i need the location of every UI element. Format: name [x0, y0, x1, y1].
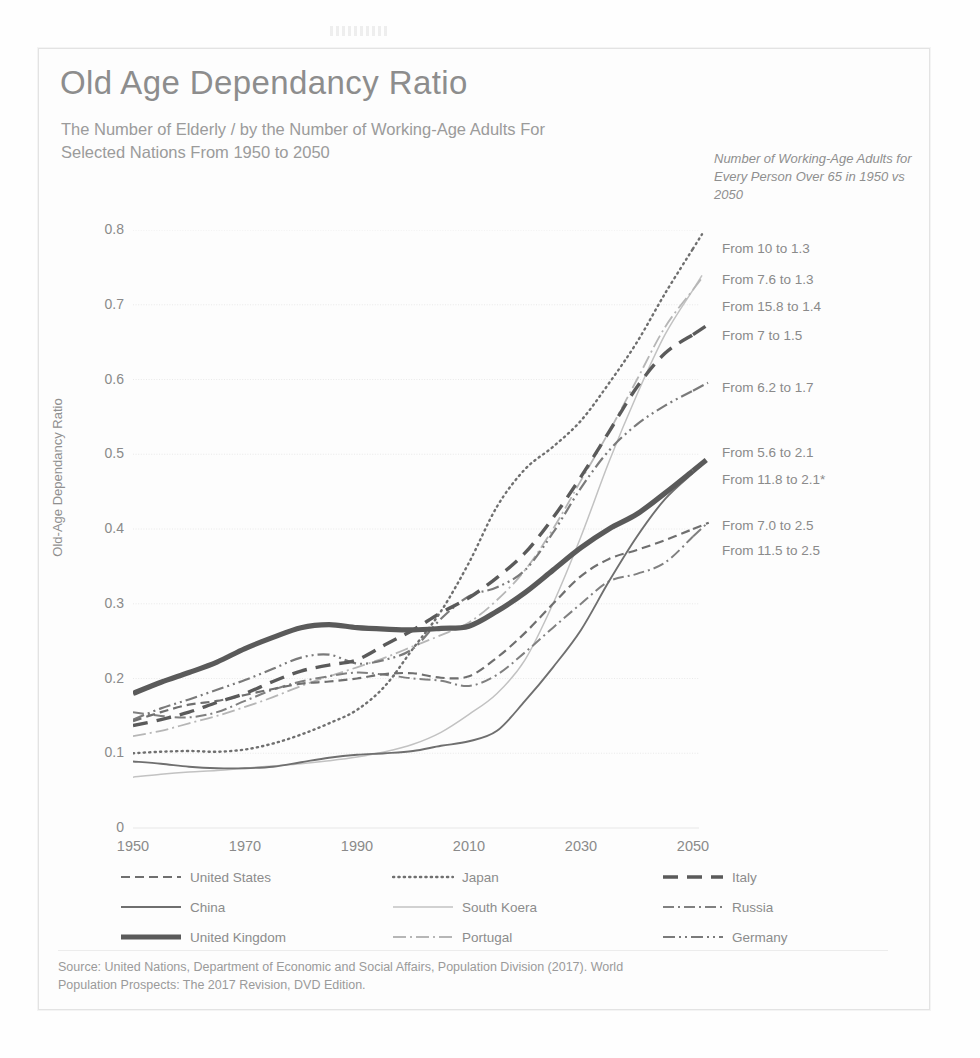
scan-artifact: [330, 26, 390, 36]
legend-label: Germany: [732, 930, 788, 945]
annotation-1: From 7.6 to 1.3: [722, 272, 814, 287]
source-note: Source: United Nations, Department of Ec…: [58, 958, 658, 994]
y-tick-label: 0.5: [78, 445, 124, 461]
y-tick-label: 0.2: [78, 670, 124, 686]
legend-item-united-kingdom[interactable]: United Kingdom: [120, 922, 392, 952]
legend-swatch-russia-icon: [662, 900, 724, 914]
series-line-china: [133, 473, 693, 768]
legend-label: Russia: [732, 900, 773, 915]
legend-item-portugal[interactable]: Portugal: [392, 922, 662, 952]
annotation-3: From 7 to 1.5: [722, 328, 802, 343]
annotation-8: From 11.5 to 2.5: [722, 543, 820, 558]
legend-label: Italy: [732, 870, 757, 885]
annotation-4: From 6.2 to 1.7: [722, 380, 814, 395]
series-line-united-states: [133, 529, 693, 721]
legend-item-china[interactable]: China: [120, 892, 392, 922]
x-tick-label: 2050: [658, 838, 728, 854]
legend-label: Japan: [462, 870, 499, 885]
legend-label: South Koera: [462, 900, 537, 915]
legend-row: United StatesJapanItaly: [120, 862, 910, 892]
legend-swatch-germany-icon: [662, 930, 724, 944]
legend-item-russia[interactable]: Russia: [662, 892, 902, 922]
chart-subtitle: The Number of Elderly / by the Number of…: [61, 118, 581, 164]
annotation-7: From 7.0 to 2.5: [722, 518, 814, 533]
y-tick-label: 0.3: [78, 595, 124, 611]
series-leader-united-kingdom: [693, 460, 706, 471]
legend-swatch-china-icon: [120, 900, 182, 914]
plot-area: [133, 230, 693, 828]
y-tick-label: 0.7: [78, 296, 124, 312]
annotation-5: From 5.6 to 2.1: [722, 445, 814, 460]
legend-item-south-koera[interactable]: South Koera: [392, 892, 662, 922]
legend-swatch-united-states-icon: [120, 870, 182, 884]
legend-item-italy[interactable]: Italy: [662, 862, 902, 892]
annotation-2: From 15.8 to 1.4: [722, 299, 821, 314]
series-leader-germany: [693, 383, 708, 391]
series-leader-italy: [693, 325, 707, 334]
x-tick-label: 2010: [434, 838, 504, 854]
annotation-6: From 11.8 to 2.1*: [722, 472, 825, 487]
x-tick-label: 1990: [322, 838, 392, 854]
legend-swatch-united-kingdom-icon: [120, 930, 182, 944]
legend-label: United Kingdom: [190, 930, 286, 945]
y-tick-label: 0.6: [78, 371, 124, 387]
x-tick-label: 1950: [98, 838, 168, 854]
legend-item-united-states[interactable]: United States: [120, 862, 392, 892]
annotation-0: From 10 to 1.3: [722, 241, 810, 256]
chart-page: Old Age Dependancy Ratio The Number of E…: [0, 0, 980, 1058]
legend-item-japan[interactable]: Japan: [392, 862, 662, 892]
series-line-japan: [133, 249, 693, 754]
y-tick-label: 0.1: [78, 744, 124, 760]
legend-label: China: [190, 900, 225, 915]
series-leader-portugal: [693, 276, 703, 290]
annotation-header: Number of Working-Age Adults for Every P…: [714, 150, 919, 204]
y-axis-label: Old-Age Dependancy Ratio: [50, 363, 65, 593]
series-leader-united-states: [693, 523, 709, 529]
series-line-germany: [133, 391, 693, 720]
series-leader-japan: [693, 234, 702, 248]
legend-swatch-italy-icon: [662, 870, 724, 884]
legend-label: United States: [190, 870, 271, 885]
legend-swatch-south-koera-icon: [392, 900, 454, 914]
y-tick-label: 0.8: [78, 221, 124, 237]
legend-swatch-japan-icon: [392, 870, 454, 884]
source-divider: [58, 950, 888, 951]
legend-row: United KingdomPortugalGermany: [120, 922, 910, 952]
y-tick-label: 0: [78, 819, 124, 835]
legend-row: ChinaSouth KoeraRussia: [120, 892, 910, 922]
x-tick-label: 2030: [546, 838, 616, 854]
legend-item-germany[interactable]: Germany: [662, 922, 902, 952]
page-title: Old Age Dependancy Ratio: [60, 64, 468, 102]
x-tick-label: 1970: [210, 838, 280, 854]
legend-label: Portugal: [462, 930, 512, 945]
series-line-portugal: [133, 290, 693, 736]
y-tick-label: 0.4: [78, 520, 124, 536]
chart-svg: [133, 230, 719, 832]
chart-legend: United StatesJapanItalyChinaSouth KoeraR…: [120, 862, 910, 952]
legend-swatch-portugal-icon: [392, 930, 454, 944]
